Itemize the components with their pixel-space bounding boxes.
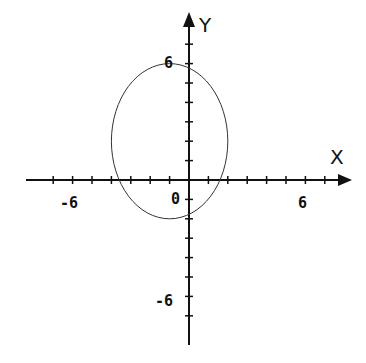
y-tick-label-neg6: -6 — [155, 292, 173, 310]
ellipse-curve — [111, 64, 227, 219]
y-axis-label: Y — [198, 13, 212, 37]
x-axis-arrow-icon — [338, 174, 352, 186]
x-tick-label-neg6: -6 — [60, 194, 78, 212]
origin-label: 0 — [171, 190, 180, 208]
y-tick-label-pos6: 6 — [164, 54, 173, 72]
y-axis-arrow-icon — [183, 12, 195, 27]
coordinate-plot: X Y 0 -6 6 6 -6 — [0, 0, 366, 363]
x-axis-label: X — [330, 145, 344, 169]
x-tick-label-pos6: 6 — [298, 194, 307, 212]
